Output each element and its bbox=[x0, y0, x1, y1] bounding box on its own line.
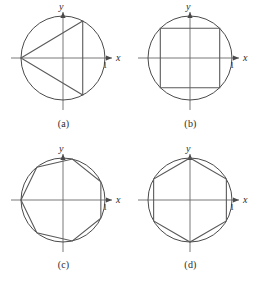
unit-tick-label: 1 bbox=[230, 203, 234, 212]
panel-b-caption: (b) bbox=[127, 118, 254, 129]
y-axis-arrowhead bbox=[60, 12, 65, 18]
y-axis-label: y bbox=[185, 1, 191, 12]
panel-d-diagram: x y 1 bbox=[127, 142, 254, 259]
panel-c-diagram: x y 1 bbox=[0, 142, 127, 259]
y-axis-arrowhead bbox=[60, 154, 65, 160]
unit-tick-label: 1 bbox=[230, 61, 234, 70]
x-axis-label: x bbox=[242, 52, 248, 63]
panel-b-diagram: x y 1 bbox=[127, 0, 254, 118]
panel-c-caption: (c) bbox=[0, 259, 127, 270]
x-axis-arrowhead bbox=[106, 55, 112, 60]
x-axis-arrowhead bbox=[106, 197, 112, 202]
x-axis-arrowhead bbox=[233, 55, 239, 60]
y-axis-label: y bbox=[58, 1, 64, 12]
panel-a: x y 1 (a) bbox=[0, 0, 127, 142]
x-axis-label: x bbox=[242, 194, 248, 205]
panel-b: x y 1 (b) bbox=[127, 0, 254, 142]
panel-a-caption: (a) bbox=[0, 118, 127, 129]
y-axis-arrowhead bbox=[187, 12, 192, 18]
panel-d: x y 1 (d) bbox=[127, 142, 254, 283]
panel-c: x y 1 (c) bbox=[0, 142, 127, 283]
y-axis-label: y bbox=[185, 143, 191, 154]
y-axis-label: y bbox=[58, 143, 64, 154]
unit-tick-label: 1 bbox=[103, 61, 107, 70]
panel-a-diagram: x y 1 bbox=[0, 0, 127, 118]
x-axis-arrowhead bbox=[233, 197, 239, 202]
x-axis-label: x bbox=[115, 52, 121, 63]
x-axis-label: x bbox=[115, 194, 121, 205]
unit-tick-label: 1 bbox=[103, 203, 107, 212]
panel-d-caption: (d) bbox=[127, 259, 254, 270]
figure-grid: x y 1 (a) x y 1 (b) x y 1 bbox=[0, 0, 254, 283]
